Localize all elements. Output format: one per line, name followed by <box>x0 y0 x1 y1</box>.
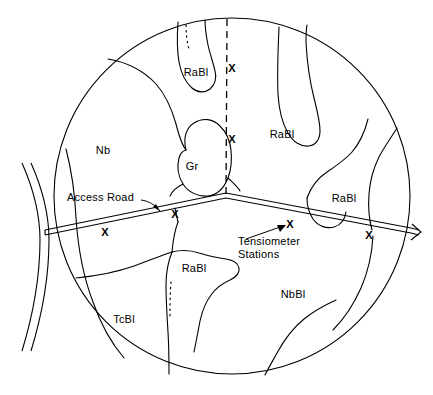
soil-map-svg: RaBl RaBl RaBl RaBl Nb Gr NbBl TcBl Acce… <box>0 0 433 395</box>
boundary-rabl-east-right <box>369 128 397 230</box>
station-marker-road-2: X <box>171 208 179 220</box>
dotted-drainage-north <box>186 25 189 49</box>
station-marker-road-4: X <box>365 229 373 241</box>
boundary-nb-northeast <box>108 59 186 150</box>
boundary-gr-polygon <box>178 119 231 196</box>
boundary-gr-tail <box>170 184 183 196</box>
tensiometer-stations-label-line1: Tensiometer <box>238 235 300 247</box>
station-marker-road-1: X <box>101 226 109 238</box>
station-marker-road-3: X <box>286 218 294 230</box>
tensiometer-arrowhead <box>277 225 286 232</box>
station-marker-transect-2: X <box>228 133 236 145</box>
soil-map-figure: RaBl RaBl RaBl RaBl Nb Gr NbBl TcBl Acce… <box>0 0 433 395</box>
boundary-rabl-south-west <box>166 252 172 374</box>
transect-dashed-line <box>226 19 227 196</box>
boundary-rabl-east-upper <box>307 119 368 198</box>
dotted-drainage-south <box>170 282 171 318</box>
soil-unit-nbbl: NbBl <box>281 288 306 300</box>
soil-unit-tcbl: TcBl <box>113 313 135 325</box>
soil-unit-gr: Gr <box>186 160 199 172</box>
access-road-label: Access Road <box>67 191 134 203</box>
soil-unit-rabl-east: RaBl <box>332 192 357 204</box>
stream-double-line <box>22 163 49 351</box>
boundary-rabl-north <box>177 20 215 92</box>
boundary-rabl-south-stem <box>172 222 178 252</box>
soil-unit-rabl-north: RaBl <box>184 66 209 78</box>
tensiometer-stations-label-line2: Stations <box>238 248 280 260</box>
soil-unit-nb: Nb <box>96 144 110 156</box>
station-marker-transect-1: X <box>228 62 236 74</box>
soil-unit-rabl-south: RaBl <box>182 262 207 274</box>
boundary-nbbl-east <box>333 236 373 330</box>
soil-unit-rabl-northeast: RaBl <box>270 128 295 140</box>
boundary-gr-east-tail <box>228 178 240 191</box>
boundary-tcbl-north <box>76 252 172 278</box>
boundary-nbbl-south <box>265 300 336 375</box>
boundary-nb-west <box>66 149 124 358</box>
